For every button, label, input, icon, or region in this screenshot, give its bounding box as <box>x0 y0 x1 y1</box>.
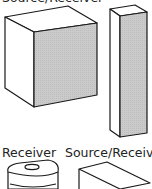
wedge-box-shape <box>79 162 150 189</box>
tall-column-shape <box>110 5 147 137</box>
label-source-receiver-bottom: Source/Receiver <box>65 146 152 160</box>
diagram-canvas <box>0 0 152 189</box>
label-receiver: Receiver <box>2 146 56 160</box>
cylinder-receiver-shape <box>8 160 59 189</box>
large-box-shape <box>5 6 97 107</box>
